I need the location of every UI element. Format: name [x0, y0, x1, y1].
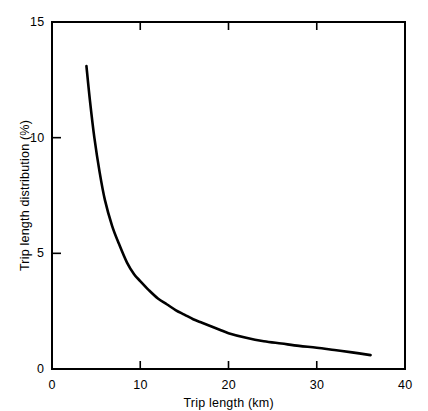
x-tick-label-1: 10 — [133, 378, 147, 392]
plot-area — [0, 0, 428, 411]
chart-figure: 0 10 20 30 40 0 5 10 15 Trip length (km)… — [0, 0, 428, 411]
y-axis-title: Trip length distribution (%) — [18, 120, 32, 271]
x-axis-ticks — [140, 22, 317, 369]
x-tick-label-0: 0 — [49, 378, 56, 392]
x-tick-label-4: 40 — [398, 378, 412, 392]
y-axis-ticks — [52, 138, 61, 254]
data-series-line — [86, 66, 370, 355]
y-tick-label-2: 10 — [30, 131, 44, 145]
x-tick-label-3: 30 — [310, 378, 324, 392]
x-axis-title: Trip length (km) — [184, 396, 274, 410]
y-tick-label-0: 0 — [37, 362, 44, 376]
y-tick-label-3: 15 — [30, 15, 44, 29]
x-tick-label-2: 20 — [222, 378, 236, 392]
y-tick-label-1: 5 — [37, 246, 44, 260]
